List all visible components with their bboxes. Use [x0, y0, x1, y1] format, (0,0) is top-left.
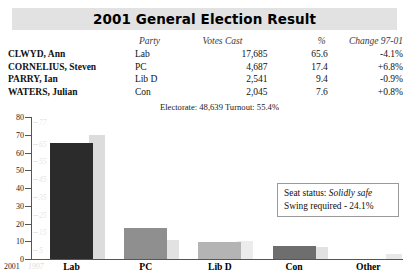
column-header-votes: Votes Cast: [201, 36, 278, 46]
cell-percent: 17.4: [282, 62, 334, 72]
page-title: 2001 General Election Result: [93, 11, 316, 27]
seat-status-line: Seat status: Solidly safe: [284, 187, 392, 200]
cell-change: +6.8%: [334, 62, 403, 72]
electorate-turnout-line: Electorate: 48,639 Turnout: 55.4%: [0, 102, 409, 112]
cell-candidate: CORNELIUS, Steven: [8, 62, 135, 72]
seat-status-box: Seat status: Solidly safe Swing required…: [277, 183, 399, 217]
cell-percent: 9.4: [282, 74, 334, 84]
column-header-party: Party: [139, 36, 201, 46]
cell-votes: 17,685: [195, 49, 282, 59]
y-tick-label: 50: [2, 166, 24, 175]
y-tick: [25, 153, 32, 154]
column-header-percent: %: [278, 36, 332, 46]
y-tick: [25, 117, 32, 118]
x-axis-label-row: 2001 1997 LabPCLib DConOther: [0, 260, 409, 274]
x-axis-label-pc: PC: [116, 261, 175, 272]
y-tick-label: 20: [2, 219, 24, 228]
cell-candidate: PARRY, Ian: [8, 74, 135, 84]
table-row: WATERS, Julian Con 2,045 7.6 +0.8%: [8, 87, 403, 100]
seat-status-label: Seat status:: [284, 188, 326, 198]
y-tick-label: 70: [2, 130, 24, 139]
bar-2001: [124, 228, 167, 259]
cell-percent: 65.6: [282, 49, 334, 59]
y-tick: [25, 224, 32, 225]
x-axis-label-con: Con: [265, 261, 324, 272]
cell-change: +0.8%: [334, 87, 403, 97]
cell-change: -4.1%: [334, 49, 403, 59]
cell-percent: 7.6: [282, 87, 334, 97]
election-result-page: 2001 General Election Result Party Votes…: [0, 0, 409, 276]
y-tick-label: 10: [2, 237, 24, 246]
x-axis-label-other: Other: [339, 261, 398, 272]
cell-votes: 2,541: [195, 74, 282, 84]
bar-group: [198, 117, 257, 259]
bar-group: [124, 117, 183, 259]
x-axis-label-lab: Lab: [42, 261, 101, 272]
bar-2001: [50, 143, 93, 259]
column-header-change: Change 97-01: [332, 36, 403, 46]
cell-votes: 2,045: [195, 87, 282, 97]
table-header-row: Party Votes Cast % Change 97-01: [8, 36, 403, 49]
y-tick: [25, 170, 32, 171]
seat-status-value: Solidly safe: [329, 188, 372, 198]
table-row: CORNELIUS, Steven PC 4,687 17.4 +6.8%: [8, 62, 403, 75]
bar-1997: [386, 254, 402, 259]
y-tick-label: 40: [2, 184, 24, 193]
y-tick: [25, 188, 32, 189]
y-tick-label: 80: [2, 113, 24, 122]
bar-group: [50, 117, 109, 259]
y-tick: [25, 135, 32, 136]
cell-party: Lab: [135, 49, 195, 59]
table-row: CLWYD, Ann Lab 17,685 65.6 -4.1%: [8, 49, 403, 62]
y-tick: [25, 241, 32, 242]
y-tick: [25, 206, 32, 207]
cell-candidate: CLWYD, Ann: [8, 49, 135, 59]
cell-party: Lib D: [135, 74, 195, 84]
bar-2001: [273, 246, 316, 259]
x-axis-label-lib-d: Lib D: [190, 261, 249, 272]
swing-required-line: Swing required - 24.1%: [284, 200, 392, 213]
page-title-bar: 2001 General Election Result: [12, 8, 397, 30]
bar-2001: [198, 242, 241, 259]
cell-candidate: WATERS, Julian: [8, 87, 135, 97]
cell-party: PC: [135, 62, 195, 72]
cell-votes: 4,687: [195, 62, 282, 72]
legend-year-2001: 2001: [4, 262, 20, 271]
cell-party: Con: [135, 87, 195, 97]
y-tick-label: 30: [2, 201, 24, 210]
results-table: Party Votes Cast % Change 97-01 CLWYD, A…: [8, 36, 403, 99]
table-row: PARRY, Ian Lib D 2,541 9.4 -0.9%: [8, 74, 403, 87]
cell-change: -0.9%: [334, 74, 403, 84]
y-tick-label: 60: [2, 148, 24, 157]
